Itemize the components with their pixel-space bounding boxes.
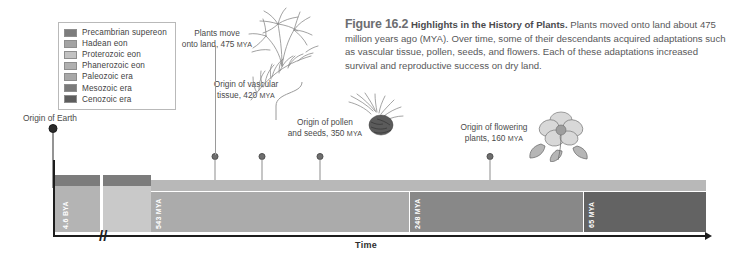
band-precambrian-supereon — [55, 175, 100, 186]
tick-label-543-mya: 543 MYA — [155, 198, 162, 229]
x-axis-label: Time — [355, 240, 377, 250]
band-phanerozoic-eon — [151, 180, 706, 191]
band-precambrian-supereon-continued — [103, 175, 151, 186]
origin-of-earth-label: Origin of Earth — [23, 113, 77, 123]
figure-container: Precambrian supereon Hadean eon Proteroz… — [0, 0, 742, 255]
x-axis-arrow-icon — [705, 232, 712, 240]
timeline-chart: Origin of Earth — [0, 0, 742, 255]
band-mesozoic-era — [410, 192, 583, 232]
y-axis-line — [53, 160, 55, 236]
band-proterozoic-eon — [103, 186, 151, 232]
x-axis-line — [53, 235, 706, 237]
tick-label-248-mya: 248 MYA — [414, 198, 421, 229]
band-cenozoic-era — [584, 192, 706, 232]
leader-line-vascular-tissue — [272, 80, 308, 122]
axis-break-mark: // — [99, 228, 107, 243]
leader-line-plants-on-land — [215, 45, 216, 155]
band-paleozoic-era — [151, 192, 409, 232]
tick-label-4-6-bya: 4.6 BYA — [62, 201, 69, 229]
tick-label-65-mya: 65 MYA — [588, 202, 595, 228]
